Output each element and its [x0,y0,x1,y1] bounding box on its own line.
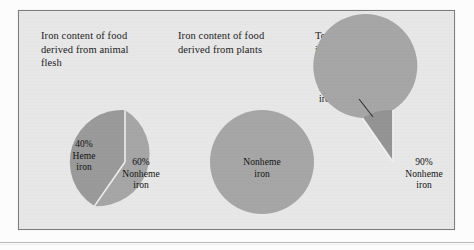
figure-panel: Iron content of food derived from animal… [18,10,455,230]
bottom-rule-highlight [0,244,474,245]
bottom-rule [0,242,474,243]
figure-root: Iron content of food derived from animal… [0,0,474,250]
pie-leader-line-svg [307,11,455,231]
pie-chart-total-dietary [307,11,455,231]
pie-chart-animal-flesh [33,11,173,231]
pie-panel-total-dietary: Total dietary iron intake (daily average… [307,11,455,231]
pie-label-nonheme-full: Nonheme iron [232,157,292,180]
pie-chart-plants [170,11,310,231]
pie-panel-plants: Iron content of food derived from plants… [170,11,310,231]
pie-panel-animal-flesh: Iron content of food derived from animal… [33,11,173,231]
pie-label-nonheme-60: 60% Nonheme iron [113,157,169,192]
leader-line-heme [359,99,373,117]
pie-label-heme-40: 40% Heme iron [61,139,107,174]
pie-label-nonheme-90: 90% Nonheme iron [395,157,453,192]
